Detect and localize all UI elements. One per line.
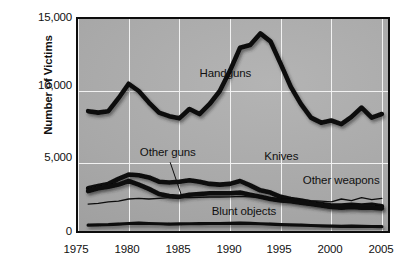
series-label-other-guns: Other guns [140,146,196,158]
y-tick-label: 15,000 [6,11,72,23]
line-chart: Number of Victims 15,000 10,000 5,000 0 … [0,0,419,267]
series-label-other-weapons: Other weapons [303,174,380,186]
y-axis-tick-labels: 15,000 10,000 5,000 0 [0,0,72,267]
y-tick-label: 0 [6,225,72,237]
series-label-handguns: Handguns [200,67,252,79]
plot-area: HandgunsKnivesOther gunsOther weaponsBlu… [76,17,390,233]
y-tick-label: 10,000 [6,79,72,91]
series-label-knives: Knives [264,150,298,162]
y-tick-label: 5,000 [6,151,72,163]
series-line-other-weapons [88,196,382,204]
series-line-blunt-objects [88,223,382,227]
leader-line-other-guns [170,162,181,195]
series-label-blunt-objects: Blunt objects [212,205,277,217]
